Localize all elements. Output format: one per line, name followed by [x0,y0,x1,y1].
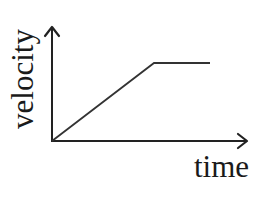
y-axis-label: velocity [7,29,38,129]
velocity-time-diagram: velocity time [0,0,272,206]
x-axis-label: time [194,151,249,182]
velocity-line [52,63,210,141]
